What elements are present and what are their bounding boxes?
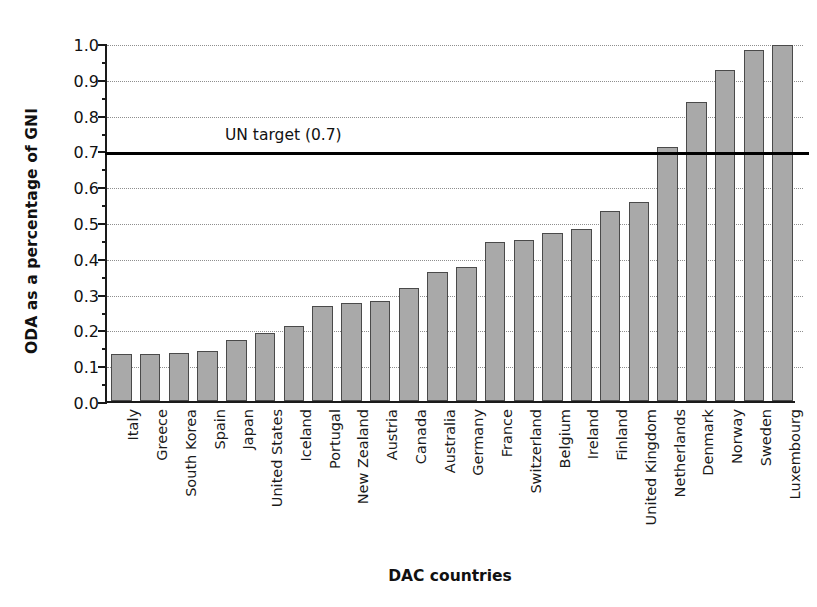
bar-slot: [596, 43, 625, 401]
x-label-slot: Finland: [594, 403, 623, 563]
bar-slot: [452, 43, 481, 401]
x-label-slot: Austria: [364, 403, 393, 563]
bar-slot: [740, 43, 769, 401]
x-label-slot: Australia: [421, 403, 450, 563]
bar: [226, 340, 247, 401]
x-label-slot: United Kingdom: [623, 403, 652, 563]
bar-slot: [682, 43, 711, 401]
x-label-slot: France: [479, 403, 508, 563]
bar-slot: [366, 43, 395, 401]
y-tick: [98, 44, 107, 46]
y-tick: [98, 259, 107, 261]
y-tick: [98, 366, 107, 368]
y-tick-label: 0.8: [39, 107, 99, 126]
bar-slot: [193, 43, 222, 401]
bar-slot: [395, 43, 424, 401]
y-tick-label: 0.1: [39, 358, 99, 377]
bar: [600, 211, 621, 401]
x-label-slot: Japan: [220, 403, 249, 563]
bar-slot: [107, 43, 136, 401]
bar: [312, 306, 333, 401]
bar-slot: [653, 43, 682, 401]
y-tick-label: 0.0: [39, 394, 99, 413]
bar-slot: [625, 43, 654, 401]
y-tick: [98, 80, 107, 82]
x-axis-title: DAC countries: [105, 567, 795, 585]
x-axis-tick-labels: ItalyGreeceSouth KoreaSpainJapanUnited S…: [105, 403, 795, 563]
x-label-slot: Belgium: [536, 403, 565, 563]
bar: [744, 50, 765, 401]
bar-slot: [251, 43, 280, 401]
un-target-line: [105, 152, 809, 155]
x-label-slot: Germany: [450, 403, 479, 563]
x-label-slot: Sweden: [738, 403, 767, 563]
bar: [427, 272, 448, 401]
bar: [571, 229, 592, 401]
x-label-slot: Norway: [709, 403, 738, 563]
bar-series: [107, 43, 797, 401]
bar: [485, 242, 506, 401]
bar: [657, 147, 678, 401]
bar-slot: [768, 43, 797, 401]
x-label-slot: Luxembourg: [766, 403, 795, 563]
bar: [370, 301, 391, 401]
bar-slot: [337, 43, 366, 401]
bar: [715, 70, 736, 401]
y-tick-label: 1.0: [39, 36, 99, 55]
bar-slot: [222, 43, 251, 401]
bar: [629, 202, 650, 401]
bar: [772, 45, 793, 401]
x-label-slot: Portugal: [306, 403, 335, 563]
bar-slot: [510, 43, 539, 401]
x-label-slot: Iceland: [278, 403, 307, 563]
bar: [169, 353, 190, 401]
y-tick: [98, 223, 107, 225]
bar-slot: [165, 43, 194, 401]
y-tick: [98, 330, 107, 332]
x-label-slot: Spain: [191, 403, 220, 563]
bar: [255, 333, 276, 401]
x-label-slot: Greece: [134, 403, 163, 563]
x-tick-label: Luxembourg: [787, 409, 803, 499]
chart-figure: ODA as a percentage of GNI 0.00.10.20.30…: [0, 0, 817, 607]
x-label-slot: South Korea: [163, 403, 192, 563]
bar: [542, 233, 563, 401]
bar: [284, 326, 305, 401]
y-tick: [98, 187, 107, 189]
x-label-slot: New Zealand: [335, 403, 364, 563]
bar-slot: [423, 43, 452, 401]
x-label-slot: Italy: [105, 403, 134, 563]
un-target-label: UN target (0.7): [225, 126, 342, 144]
bar: [514, 240, 535, 401]
y-tick: [98, 116, 107, 118]
bar-slot: [280, 43, 309, 401]
bar: [686, 102, 707, 401]
x-label-slot: Canada: [393, 403, 422, 563]
bar-slot: [136, 43, 165, 401]
bar: [197, 351, 218, 401]
y-tick-label: 0.7: [39, 143, 99, 162]
y-tick-label: 0.5: [39, 215, 99, 234]
x-label-slot: United States: [249, 403, 278, 563]
y-tick-label: 0.6: [39, 179, 99, 198]
y-tick-label: 0.9: [39, 71, 99, 90]
x-label-slot: Netherlands: [651, 403, 680, 563]
x-label-slot: Switzerland: [508, 403, 537, 563]
plot-area: 0.00.10.20.30.40.50.60.70.80.91.0 UN tar…: [105, 45, 795, 403]
bar-slot: [308, 43, 337, 401]
y-tick: [98, 295, 107, 297]
y-tick-label: 0.3: [39, 286, 99, 305]
x-label-slot: Denmark: [680, 403, 709, 563]
bar: [111, 354, 132, 401]
y-tick-label: 0.4: [39, 250, 99, 269]
bar: [341, 303, 362, 401]
x-label-slot: Ireland: [565, 403, 594, 563]
y-tick-label: 0.2: [39, 322, 99, 341]
bar-slot: [538, 43, 567, 401]
bar: [399, 288, 420, 401]
bar-slot: [481, 43, 510, 401]
bar-slot: [567, 43, 596, 401]
bar: [140, 354, 161, 401]
bar-slot: [711, 43, 740, 401]
bar: [456, 267, 477, 401]
